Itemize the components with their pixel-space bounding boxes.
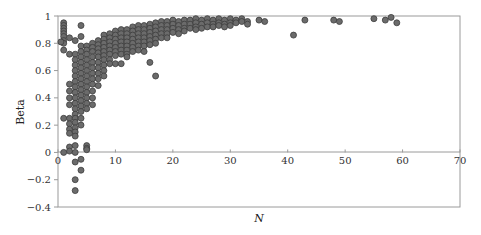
x-tick-label: 0	[55, 155, 61, 166]
data-point	[67, 35, 73, 41]
y-axis-ticks: −0.4−0.200.20.40.60.81	[27, 11, 58, 213]
data-point	[141, 49, 147, 55]
x-tick-label: 60	[396, 155, 409, 166]
data-point	[72, 149, 78, 155]
data-point	[78, 167, 84, 173]
data-point	[90, 95, 96, 101]
data-point	[84, 73, 90, 79]
data-point	[336, 19, 342, 25]
data-point	[67, 95, 73, 101]
data-point	[95, 83, 101, 89]
data-point	[78, 23, 84, 29]
data-point	[67, 115, 73, 121]
y-tick-label: 0	[45, 147, 51, 158]
y-tick-label: 0.6	[35, 65, 51, 76]
data-point	[61, 47, 67, 53]
data-point	[95, 70, 101, 76]
y-tick-label: 0.4	[35, 92, 51, 103]
data-point	[204, 24, 210, 30]
data-point	[158, 35, 164, 41]
data-point	[78, 81, 84, 87]
x-tick-label: 10	[109, 155, 122, 166]
data-point	[245, 21, 251, 27]
data-point	[78, 65, 84, 71]
data-point	[118, 61, 124, 67]
data-point	[78, 156, 84, 162]
data-point	[78, 43, 84, 49]
data-point	[72, 51, 78, 57]
y-tick-label: −0.4	[27, 202, 51, 213]
data-point	[101, 62, 107, 68]
x-tick-label: 40	[281, 155, 294, 166]
data-point	[107, 61, 113, 67]
data-point	[72, 89, 78, 95]
data-point	[72, 62, 78, 68]
x-tick-label: 70	[454, 155, 467, 166]
data-point	[78, 34, 84, 40]
scatter-chart: −0.4−0.200.20.40.60.81 010203040506070 B…	[0, 0, 481, 235]
data-point	[262, 19, 268, 25]
data-point	[78, 122, 84, 128]
data-point	[67, 148, 73, 154]
x-tick-label: 50	[339, 155, 352, 166]
data-point	[90, 102, 96, 108]
data-point	[233, 20, 239, 26]
data-point	[67, 102, 73, 108]
data-point	[72, 143, 78, 149]
data-point	[112, 53, 118, 59]
x-tick-label: 20	[166, 155, 179, 166]
data-point	[78, 70, 84, 76]
data-point	[61, 115, 67, 121]
data-point	[331, 17, 337, 23]
data-point	[67, 81, 73, 87]
data-point	[84, 100, 90, 106]
data-point	[227, 23, 233, 29]
data-point	[67, 88, 73, 94]
y-tick-label: 0.2	[35, 120, 51, 131]
data-point	[78, 54, 84, 60]
data-point	[153, 40, 159, 46]
data-point	[199, 25, 205, 31]
data-point	[90, 65, 96, 71]
data-point	[84, 51, 90, 57]
data-point	[382, 17, 388, 23]
data-point	[239, 19, 245, 25]
data-point	[72, 38, 78, 44]
data-point	[78, 103, 84, 109]
data-point	[181, 28, 187, 34]
data-point	[61, 149, 67, 155]
data-point	[58, 39, 64, 45]
data-point	[90, 70, 96, 76]
y-tick-label: −0.2	[27, 174, 51, 185]
data-point	[164, 35, 170, 41]
data-point	[84, 84, 90, 90]
data-point	[291, 32, 297, 38]
data-point	[67, 130, 73, 136]
data-point	[216, 23, 222, 29]
data-point	[72, 133, 78, 139]
data-point	[130, 49, 136, 55]
data-point	[90, 54, 96, 60]
y-axis-title: Beta	[14, 99, 27, 125]
data-point	[124, 54, 130, 60]
data-point	[371, 16, 377, 22]
data-point	[95, 65, 101, 71]
data-point	[170, 29, 176, 35]
data-point	[90, 88, 96, 94]
data-point	[141, 43, 147, 49]
data-point	[78, 109, 84, 115]
data-point	[112, 61, 118, 67]
data-point	[153, 73, 159, 79]
data-point	[67, 51, 73, 57]
data-points	[58, 14, 400, 193]
x-tick-label: 30	[224, 155, 237, 166]
data-point	[210, 24, 216, 30]
data-point	[72, 84, 78, 90]
data-point	[95, 76, 101, 82]
data-point	[72, 73, 78, 79]
data-point	[72, 119, 78, 125]
x-axis-title: N	[253, 212, 264, 225]
data-point	[84, 62, 90, 68]
data-point	[187, 25, 193, 31]
data-point	[84, 89, 90, 95]
